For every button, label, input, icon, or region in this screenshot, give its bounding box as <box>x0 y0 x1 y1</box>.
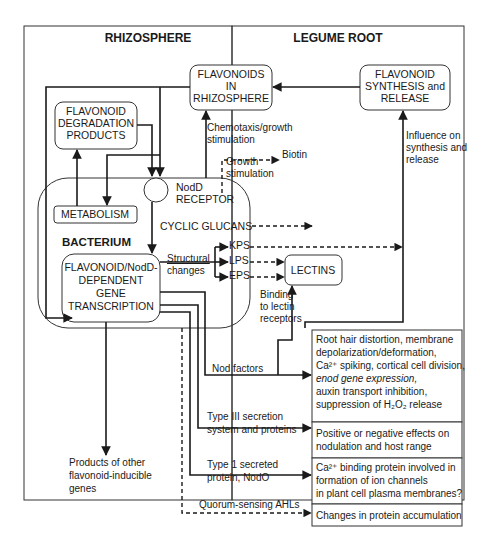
influence-line2: synthesis and <box>406 142 467 153</box>
effect1-line6: suppression of H₂O₂ release <box>316 399 443 410</box>
metabolism-label: METABOLISM <box>61 208 129 220</box>
other-products-line1: Products of other <box>69 457 146 468</box>
type3-line1: Type III secretion <box>207 411 283 422</box>
transcription-line1: FLAVONOID/NodD- <box>64 261 158 273</box>
flavonoid-signaling-diagram: RHIZOSPHERE LEGUME ROOT FLAVONOIDS IN RH… <box>0 0 496 543</box>
transcription-line3: GENE <box>96 287 126 299</box>
other-products-line3: genes <box>69 483 96 494</box>
effect2-line1: Positive or negative effects on <box>316 428 449 439</box>
nodd-receptor-circle <box>144 178 168 202</box>
effect1-line1: Root hair distortion, membrane <box>316 334 454 345</box>
nodd-line2: RECEPTOR <box>176 193 235 205</box>
structural-line2: changes <box>167 265 205 276</box>
effect3-line1: Ca²⁺ binding protein involved in <box>316 462 456 473</box>
effect1-line2: depolarization/deformation, <box>316 347 437 358</box>
quorum-label: Quorum-sensing AHLs <box>199 499 300 510</box>
degradation-line3: PRODUCTS <box>67 129 126 141</box>
chemotaxis-line1: Chemotaxis/growth <box>207 122 293 133</box>
flavonoids-rhizosphere-line1: FLAVONOIDS <box>198 68 265 80</box>
effect3-line3: in plant cell plasma membranes? <box>316 488 463 499</box>
effect1-line5: auxin transport inhibition, <box>316 386 427 397</box>
cyclic-glucans-label: CYCLIC GLUCANS <box>160 220 252 232</box>
kps-label: KPS <box>229 239 250 251</box>
effect4-line1: Changes in protein accumulation <box>316 510 462 521</box>
binding-line1: Binding <box>260 289 293 300</box>
transcription-line4: TRANSCRIPTION <box>68 300 154 312</box>
synthesis-line2: SYNTHESIS and <box>365 80 445 92</box>
type1-line2: protein, NodO <box>207 472 269 483</box>
influence-line1: Influence on <box>406 130 461 141</box>
rhizosphere-title: RHIZOSPHERE <box>105 31 192 45</box>
bacterium-label: BACTERIUM <box>62 236 131 248</box>
synthesis-line3: RELEASE <box>381 92 429 104</box>
effect1-line4: enod gene expression, <box>316 373 417 384</box>
flavonoids-rhizosphere-line3: RHIZOSPHERE <box>193 92 269 104</box>
legume-root-title: LEGUME ROOT <box>293 31 383 45</box>
type1-line1: Type 1 secreted <box>207 459 278 470</box>
effect3-line2: formation of ion channels <box>316 475 428 486</box>
flavonoids-rhizosphere-line2: IN <box>226 80 237 92</box>
chemotaxis-line2: stimulation <box>207 134 255 145</box>
binding-line2: to lectin <box>260 301 294 312</box>
type3-line2: system and proteins <box>207 424 297 435</box>
binding-line3: receptors <box>260 313 302 324</box>
lps-label: LPS <box>229 254 249 266</box>
biotin-label: Biotin <box>282 149 307 160</box>
nod-factors-label: Nod factors <box>212 363 263 374</box>
eps-label: EPS <box>229 269 250 281</box>
growth-stim-line2: stimulation <box>226 168 274 179</box>
influence-line3: release <box>406 154 439 165</box>
synthesis-line1: FLAVONOID <box>375 68 435 80</box>
growth-stim-line1: Growth <box>226 156 258 167</box>
degradation-line1: FLAVONOID <box>66 105 126 117</box>
transcription-line2: DEPENDENT <box>79 274 144 286</box>
lectins-label: LECTINS <box>291 264 335 276</box>
degradation-line2: DEGRADATION <box>58 117 134 129</box>
nodd-line1: NodD <box>176 181 203 193</box>
other-products-line2: flavonoid-inducible <box>69 470 152 481</box>
effect2-line2: nodulation and host range <box>316 441 432 452</box>
effect1-line3: Ca²⁺ spiking, cortical cell division, <box>316 360 465 371</box>
